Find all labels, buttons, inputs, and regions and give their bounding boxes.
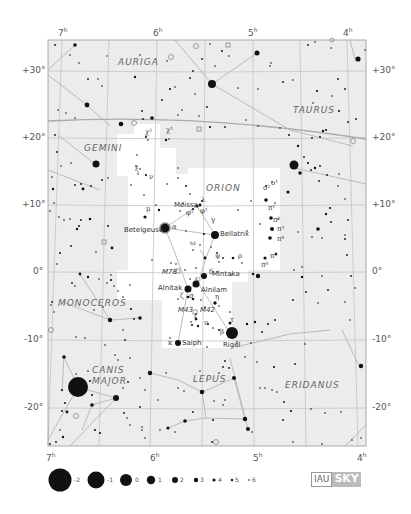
pollux-star xyxy=(93,161,100,168)
ra-tick-top-6h: 6h xyxy=(153,26,163,38)
greek-label: χ¹ xyxy=(166,126,173,134)
constellation-label-lepus: LEPUS xyxy=(193,374,226,384)
iau-sky-logo: IAU SKY xyxy=(311,472,361,487)
sirius-star xyxy=(68,377,88,397)
legend-mag-4: 4 xyxy=(218,476,222,483)
star-label-meissa: Meissa xyxy=(174,201,198,209)
greek-label: μ xyxy=(146,205,151,213)
dso-label-m43: M43 xyxy=(178,306,193,314)
greek-label: χ² xyxy=(145,128,152,136)
constellation-label-canis: CANIS xyxy=(92,365,125,375)
greek-label: φ¹ xyxy=(200,207,208,215)
greek-label: ρ xyxy=(238,252,242,260)
legend-mag-6: 6 xyxy=(252,476,256,483)
dec-tick-left-plus30: +30° xyxy=(22,65,46,75)
greek-label: α xyxy=(172,223,177,231)
dso-label-m42: M42 xyxy=(200,306,215,314)
greek-label: ο² xyxy=(263,184,270,192)
ra-tick-bottom-7h: 7h xyxy=(46,451,56,463)
greek-label: γ xyxy=(211,216,215,224)
dec-tick-right-plus30: +30° xyxy=(372,65,396,75)
dec-tick-right-plus20: +20° xyxy=(372,132,396,142)
constellation-label-orion: ORION xyxy=(206,183,241,193)
ra-tick-bottom-4h: 4h xyxy=(357,451,367,463)
star-label-bellatrix: Bellatrix xyxy=(220,230,249,238)
greek-label: π³ xyxy=(277,225,284,233)
greek-label: π⁶ xyxy=(261,261,268,269)
sky-logo-text: SKY xyxy=(332,472,360,487)
legend-mag-0: 0 xyxy=(135,476,139,483)
star-label-saiph: Saiph xyxy=(182,339,202,347)
constellation-label-gemini: GEMINI xyxy=(84,143,122,153)
dec-tick-left-plus20: +20° xyxy=(22,132,46,142)
greek-label: ν xyxy=(149,173,153,181)
constellation-label-eridanus: ERIDANUS xyxy=(285,380,340,390)
saiph-star xyxy=(175,340,181,346)
greek-label: η xyxy=(215,293,219,301)
greek-label: λ xyxy=(201,196,205,204)
mintaka-star xyxy=(201,273,207,279)
greek-label: ζ xyxy=(180,292,184,300)
ra-tick-bottom-5h: 5h xyxy=(253,451,263,463)
star-label-betelgeuse: Betelgeuse xyxy=(124,226,163,234)
greek-label: ψ xyxy=(215,252,221,260)
constellation-label-taurus: TAURUS xyxy=(293,105,335,115)
constellation-label-monoceros: MONOCEROS xyxy=(58,298,127,308)
dec-tick-right-plus10: +10° xyxy=(372,199,396,209)
ra-tick-top-7h: 7h xyxy=(58,26,68,38)
legend-mag-5: 5 xyxy=(235,476,239,483)
legend-mag-minus1: -1 xyxy=(107,476,113,483)
dec-tick-right-minus20: -20° xyxy=(372,402,391,412)
greek-label: ξ xyxy=(135,165,139,173)
greek-label: τ xyxy=(230,316,234,324)
greek-label: δ xyxy=(209,268,213,276)
bellatrix-star xyxy=(211,231,219,239)
aldebaran-star xyxy=(290,161,299,170)
ra-tick-top-4h: 4h xyxy=(343,26,353,38)
dso-label-m78: M78 xyxy=(162,268,177,276)
greek-label: ι xyxy=(194,313,197,321)
greek-label: φ² xyxy=(186,209,194,217)
ra-tick-top-5h: 5h xyxy=(248,26,258,38)
greek-label: υ xyxy=(204,319,208,327)
ra-tick-bottom-6h: 6h xyxy=(150,451,160,463)
greek-label: π¹ xyxy=(268,204,275,212)
star-chart xyxy=(0,0,411,514)
dec-tick-left-0: 0° xyxy=(33,266,43,276)
greek-label: σ xyxy=(189,292,194,300)
dec-tick-left-minus20: -20° xyxy=(24,402,43,412)
legend-mag-1: 1 xyxy=(158,476,162,483)
legend-mag-2: 2 xyxy=(180,476,184,483)
star-label-rigel: Rigel xyxy=(223,341,241,349)
greek-label: π⁴ xyxy=(277,235,284,243)
legend-mag-minus2: -2 xyxy=(74,476,80,483)
elnath-star xyxy=(208,80,216,88)
iau-logo-text: IAU xyxy=(311,472,332,487)
dec-tick-left-plus10: +10° xyxy=(22,199,46,209)
star-label-mintaka: Mintaka xyxy=(212,270,240,278)
constellation-label-major: MAJOR xyxy=(92,376,127,386)
greek-label: π² xyxy=(273,216,280,224)
greek-label: π⁵ xyxy=(270,252,277,260)
greek-label: ε xyxy=(195,275,199,283)
dec-tick-right-0: 0° xyxy=(372,266,382,276)
star-label-alnitak: Alnitak xyxy=(158,284,182,292)
dec-tick-right-minus10: -10° xyxy=(372,334,391,344)
legend-mag-3: 3 xyxy=(200,476,204,483)
greek-label: ο¹ xyxy=(271,179,278,187)
dec-tick-left-minus10: -10° xyxy=(24,334,43,344)
greek-label: β xyxy=(220,328,224,336)
rigel-star xyxy=(226,327,238,339)
constellation-label-auriga: AURIGA xyxy=(118,57,159,67)
greek-label: κ xyxy=(168,339,172,347)
greek-label: ω xyxy=(190,239,196,247)
